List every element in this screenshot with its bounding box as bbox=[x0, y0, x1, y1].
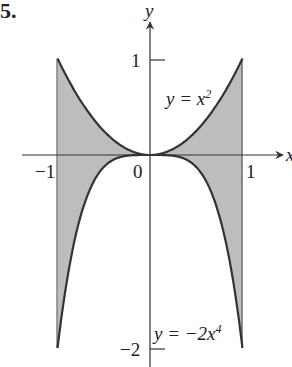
x-tick-label-0: 0 bbox=[133, 162, 143, 181]
x-axis-label: x bbox=[286, 145, 292, 164]
problem-number: 5. bbox=[0, 0, 17, 22]
lower-curve-exponent: 4 bbox=[216, 322, 222, 336]
graph bbox=[0, 0, 292, 367]
y-axis-label: y bbox=[145, 1, 153, 20]
upper-curve-equation: y = x bbox=[166, 88, 205, 109]
label-upper-curve: y = x2 bbox=[166, 89, 211, 108]
y-tick-label-1: 1 bbox=[131, 51, 141, 70]
x-tick-label-neg1: −1 bbox=[35, 162, 55, 181]
x-tick-label-1: 1 bbox=[246, 162, 256, 181]
lower-curve-equation: y = −2x bbox=[154, 323, 216, 344]
label-lower-curve: y = −2x4 bbox=[154, 324, 222, 343]
y-tick-label-neg2: −2 bbox=[120, 340, 140, 359]
upper-curve-exponent: 2 bbox=[205, 87, 211, 101]
